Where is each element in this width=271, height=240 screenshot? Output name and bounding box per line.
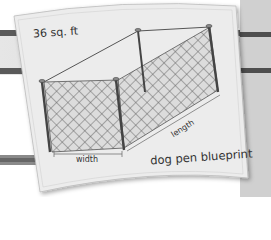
width-fence-panel: [44, 80, 124, 152]
width-label: width: [76, 155, 98, 164]
